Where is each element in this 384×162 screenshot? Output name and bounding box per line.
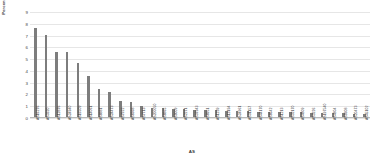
x-axis-tick-label: AS13194 — [228, 106, 232, 120]
x-axis-tick-label: AS2271 — [185, 108, 189, 120]
y-axis-tick-label: 0 — [14, 116, 28, 121]
y-axis-title: Percentage (%) — [1, 0, 13, 28]
x-axis-tick-label: AS45102 — [366, 106, 370, 120]
y-axis-tick-label: 3 — [14, 80, 28, 85]
x-axis-tick-label: AS20473 — [355, 106, 359, 120]
x-axis-tick-label: AS9308 — [345, 108, 349, 120]
x-axis-tick-label: AS9009 — [175, 108, 179, 120]
x-axis-tick-label: AS24961 — [239, 106, 243, 120]
y-axis-title-text: Percentage (%) — [1, 0, 6, 28]
x-axis-tick-label: AS7922 — [122, 108, 126, 120]
x-axis-tick-label: AS7713 — [143, 108, 147, 120]
x-axis-tick-label: AS1213 — [281, 108, 285, 120]
x-axis-tick-label: AS200050 — [154, 104, 158, 120]
x-axis-tick-label: AS44170 — [260, 106, 264, 120]
x-axis-tick-label: AS14061 — [90, 106, 94, 120]
y-axis-tick-label: 9 — [14, 10, 28, 15]
x-axis-tick-label: AS31157 — [249, 106, 253, 120]
x-axis-tick-label: AS3320 — [47, 108, 51, 120]
x-axis-tick-label: AS24940 — [69, 106, 73, 120]
x-axis-tick-label: AS32170 — [292, 106, 296, 120]
x-axis-tick-labels: AS16276AS3320AS12876AS24940AS16509AS1406… — [30, 120, 370, 148]
bar — [45, 35, 48, 117]
y-axis-tick-label: 5 — [14, 57, 28, 62]
x-axis-tick-label: AS197540 — [324, 104, 328, 120]
bar-chart-figure: Percentage (%) 0123456789 AS16276AS3320A… — [0, 0, 384, 162]
bar — [34, 28, 37, 118]
x-axis-tick-label: AS3226 — [313, 108, 317, 120]
y-axis-tick-label: 4 — [14, 69, 28, 74]
x-axis-tick-label: AS16276 — [37, 106, 41, 120]
y-axis-tick-label: 1 — [14, 104, 28, 109]
x-axis-title: AS — [0, 149, 384, 154]
x-axis-tick-label: AS12876 — [58, 106, 62, 120]
x-axis-tick-label: AS37943 — [196, 106, 200, 120]
x-axis-tick-label: AS8951 — [207, 108, 211, 120]
y-axis-tick-label: 2 — [14, 92, 28, 97]
y-axis-tick-label: 6 — [14, 45, 28, 50]
x-axis-tick-label: AS8368 — [132, 108, 136, 120]
x-axis-tick-label: AS4804 — [334, 108, 338, 120]
x-axis-tick-label: AS16509 — [79, 106, 83, 120]
x-axis-tick-label: AS24473 — [111, 106, 115, 120]
bar-series — [30, 12, 370, 117]
y-axis-tick-label: 7 — [14, 33, 28, 38]
x-axis-tick-label: AS8865 — [164, 108, 168, 120]
x-axis-tick-label: AS4809 — [302, 108, 306, 120]
x-axis-tick-label: AS8881 — [100, 108, 104, 120]
x-axis-tick-label: AS8642 — [270, 108, 274, 120]
x-axis-tick-label: AS1239 — [217, 108, 221, 120]
plot-area: 0123456789 — [30, 12, 370, 118]
y-axis-tick-label: 8 — [14, 22, 28, 27]
